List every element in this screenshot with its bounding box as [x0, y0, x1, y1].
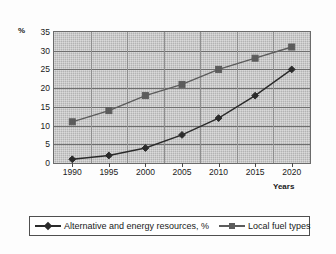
y-axis-tick-labels: 35302520151050	[24, 24, 50, 168]
legend-label-alternative-energy: Alternative and energy resources, %	[64, 221, 209, 231]
x-tick-label: 2000	[136, 167, 155, 177]
legend-entry-local-fuel: Local fuel types	[219, 221, 311, 231]
data-point-marker	[179, 81, 185, 87]
legend-swatch-square-icon	[219, 221, 245, 231]
plot-area	[53, 31, 311, 164]
y-tick-label: 25	[41, 65, 50, 74]
y-tick-label: 5	[45, 140, 50, 149]
data-point-marker	[142, 93, 148, 99]
x-tick-label: 2015	[246, 167, 265, 177]
chart-legend: Alternative and energy resources, % Loca…	[29, 216, 310, 236]
x-tick-mark	[255, 163, 256, 167]
data-point-marker	[179, 132, 186, 139]
data-point-marker	[216, 66, 222, 72]
y-tick-label: 35	[41, 28, 50, 37]
data-point-marker	[69, 156, 76, 163]
data-point-marker	[215, 115, 222, 122]
data-point-marker	[69, 119, 75, 125]
x-tick-mark	[219, 163, 220, 167]
x-tick-mark	[292, 163, 293, 167]
series-lines	[54, 32, 310, 163]
y-tick-label: 30	[41, 46, 50, 55]
x-axis-tick-labels: 1990199520002005201020152020	[53, 167, 311, 181]
x-axis-title: Years	[273, 182, 294, 191]
x-tick-mark	[182, 163, 183, 167]
data-point-marker	[289, 44, 295, 50]
x-tick-mark	[72, 163, 73, 167]
x-tick-label: 1990	[63, 167, 82, 177]
x-tick-label: 2010	[209, 167, 228, 177]
y-tick-label: 20	[41, 84, 50, 93]
line-chart-figure: % 35302520151050 19901995200020052010201…	[0, 0, 336, 254]
y-tick-label: 10	[41, 121, 50, 130]
data-point-marker	[106, 108, 112, 114]
x-tick-label: 1995	[99, 167, 118, 177]
legend-swatch-diamond-icon	[35, 221, 61, 231]
y-tick-label: 0	[45, 159, 50, 168]
x-tick-mark	[145, 163, 146, 167]
legend-entry-alternative-energy: Alternative and energy resources, %	[35, 221, 209, 231]
x-tick-label: 2005	[173, 167, 192, 177]
data-point-marker	[252, 55, 258, 61]
legend-label-local-fuel: Local fuel types	[248, 221, 311, 231]
data-point-marker	[142, 145, 149, 152]
x-tick-label: 2020	[282, 167, 301, 177]
y-tick-label: 15	[41, 102, 50, 111]
data-point-marker	[105, 152, 112, 159]
x-tick-mark	[109, 163, 110, 167]
